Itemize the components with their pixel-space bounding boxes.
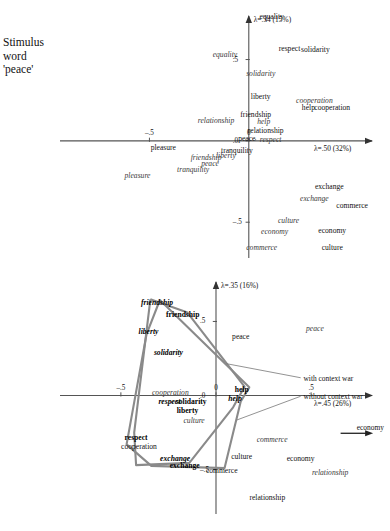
word-label: exchange — [315, 183, 344, 191]
y-tick-label: –.5 — [233, 218, 242, 226]
x-tick-label: 0 — [247, 129, 251, 137]
word-label: pleasure — [125, 172, 151, 180]
y-axis-label: λ=.35 (16%) — [221, 281, 258, 290]
y-tick-label: .0 — [200, 392, 205, 400]
word-label: economy — [261, 228, 288, 236]
x-tick-label: –.5 — [116, 384, 125, 392]
scatter-panel-bottom: friendshipfriendshippeacelibertypeacesol… — [0, 266, 390, 531]
word-label: culture — [322, 244, 343, 252]
y-tick-label: .5 — [200, 317, 205, 325]
word-label: exchange — [170, 462, 200, 470]
word-label: liberty — [139, 328, 159, 336]
word-label: tranquility — [177, 166, 209, 174]
y-tick-label: .5 — [233, 56, 238, 64]
word-label: commerce — [336, 202, 368, 210]
word-label: cooperation — [152, 389, 189, 397]
word-label: commerce — [257, 436, 288, 444]
word-label: peace — [232, 333, 249, 341]
word-label: economy — [318, 227, 346, 235]
word-label: friendship — [166, 311, 199, 319]
y-tick-label: .0 — [233, 137, 238, 145]
word-label: respect — [125, 434, 148, 442]
word-label: help — [235, 386, 249, 394]
word-label: solidarity — [246, 70, 275, 78]
word-label: respect — [260, 136, 282, 144]
word-label: pleasure — [151, 144, 176, 152]
x-tick-label: 0 — [214, 384, 218, 392]
point-marker — [171, 401, 173, 403]
word-label: help — [228, 395, 242, 403]
word-label: relationship — [312, 469, 348, 477]
chart-annotation: economy — [357, 423, 384, 432]
word-label: liberty — [177, 407, 199, 415]
word-label: help — [257, 118, 270, 126]
word-label: liberty — [251, 93, 271, 101]
word-label: culture — [231, 453, 252, 461]
y-tick-label: –.5 — [200, 466, 209, 474]
word-label: commerce — [206, 467, 238, 475]
word-label: culture — [183, 417, 204, 425]
word-label: economy — [287, 455, 315, 463]
word-label: peace — [306, 325, 324, 333]
word-label: solidarity — [154, 349, 183, 357]
x-tick-label: –.5 — [145, 129, 154, 137]
word-label: friendship — [141, 299, 173, 307]
word-label: exchange — [300, 195, 329, 203]
word-label: cooperation — [121, 443, 157, 451]
word-label: solidarity — [301, 46, 330, 54]
chart-annotation: without context war — [304, 392, 363, 401]
word-label: relationship — [198, 117, 234, 125]
word-label: cooperation — [314, 104, 350, 112]
scatter-panel-top: equalityrespectsolidarityequalitysolidar… — [0, 0, 390, 270]
word-label: help — [302, 104, 315, 112]
word-label: relationship — [249, 494, 285, 502]
x-axis-label: λ=.50 (32%) — [314, 144, 351, 153]
y-axis-label: λ=.34 (15%) — [254, 15, 291, 24]
chart-annotation: with context war — [304, 373, 354, 382]
word-label: culture — [278, 217, 299, 225]
x-tick-label: .5 — [308, 384, 313, 392]
figure-root: Stimulus word 'peace' equalityrespectsol… — [0, 0, 390, 531]
point-marker — [255, 139, 257, 141]
word-label: commerce — [246, 244, 277, 252]
word-label: respect — [279, 45, 301, 53]
